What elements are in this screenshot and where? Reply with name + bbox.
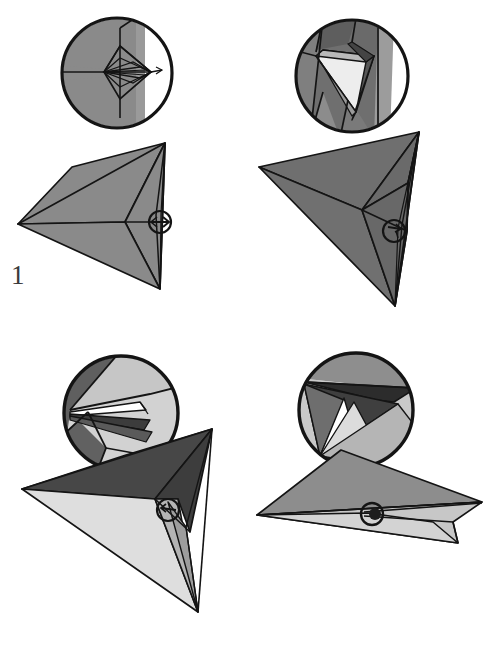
figure-page: 1 <box>0 0 495 672</box>
panel-4-artwork <box>248 336 495 672</box>
panel-1-artwork <box>0 0 247 336</box>
panel-1: 1 <box>0 0 247 336</box>
panel-3: 3 <box>0 336 247 672</box>
panel-4: 4 <box>248 336 495 672</box>
detail-inset-1 <box>60 14 175 135</box>
detail-inset-2 <box>293 18 413 138</box>
folded-model-1 <box>18 143 166 289</box>
panel-3-artwork <box>0 336 247 672</box>
panel-2: 2 <box>248 0 495 336</box>
panel-2-artwork <box>248 0 495 336</box>
detail-inset-4 <box>298 352 418 472</box>
folded-model-4 <box>257 450 482 543</box>
step-number-1: 1 <box>11 262 25 289</box>
